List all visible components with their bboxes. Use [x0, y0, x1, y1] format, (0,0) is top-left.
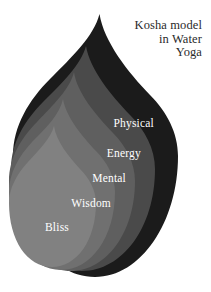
figure-title: Kosha model in Water Yoga: [135, 19, 202, 60]
figure-title-line-1: Kosha model: [135, 19, 202, 33]
kosha-water-drop-figure: Kosha model in Water Yoga Physical Energ…: [0, 0, 211, 292]
layer-label-mental: Mental: [92, 172, 126, 184]
layer-label-wisdom: Wisdom: [71, 197, 111, 209]
figure-title-line-2: in Water: [135, 33, 202, 47]
layer-label-energy: Energy: [107, 147, 141, 159]
layer-label-physical: Physical: [113, 117, 154, 129]
figure-title-line-3: Yoga: [135, 46, 202, 60]
layer-label-bliss: Bliss: [45, 221, 69, 233]
